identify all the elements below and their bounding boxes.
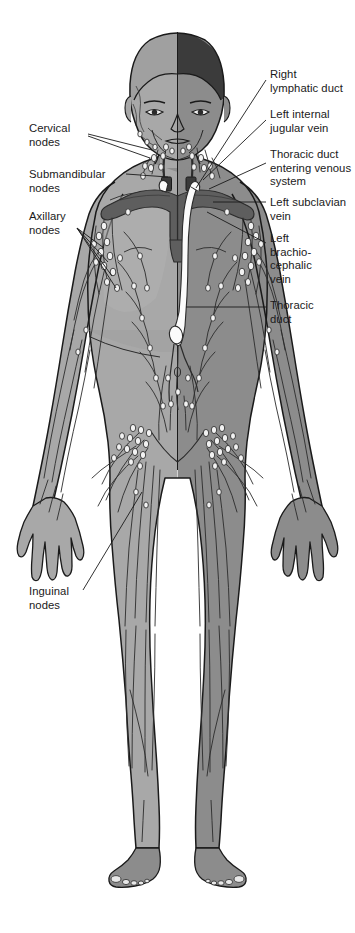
hands: [17, 498, 338, 581]
feet: [109, 800, 246, 887]
label-right-lymphatic-duct: Right lymphatic duct: [270, 68, 355, 95]
label-left-brachiocephalic-vein: Left brachio- cephalic vein: [270, 232, 355, 286]
label-submandibular-nodes: Submandibular nodes: [29, 168, 137, 195]
label-axillary-nodes: Axillary nodes: [29, 210, 124, 237]
lymphatic-system-figure: Cervical nodes Submandibular nodes Axill…: [0, 0, 355, 933]
label-thoracic-duct: Thoracic duct: [270, 299, 355, 326]
label-left-internal-jugular-vein: Left internal jugular vein: [270, 108, 355, 135]
label-thoracic-duct-entering-venous-system: Thoracic duct entering venous system: [270, 148, 355, 189]
label-inguinal-nodes: Inguinal nodes: [29, 585, 124, 612]
head: [120, 30, 236, 172]
label-left-subclavian-vein: Left subclavian vein: [270, 196, 355, 223]
label-cervical-nodes: Cervical nodes: [29, 122, 124, 149]
right-lymphatic-duct-vessel: [159, 180, 168, 192]
